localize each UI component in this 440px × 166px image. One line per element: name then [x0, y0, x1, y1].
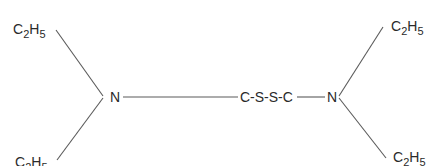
bond-n-right-to-ethyl-bottom-right	[339, 98, 386, 158]
nitrogen-left: N	[110, 90, 120, 104]
ethyl-group-bottom-right: C2H5	[393, 150, 426, 164]
ethyl-group-top-right: C2H5	[391, 19, 424, 33]
bond-n-right-to-ethyl-top-right	[339, 27, 383, 96]
ethyl-group-bottom-left: C2H5	[15, 155, 48, 166]
bond-ethyl-bottom-left-to-n-left	[57, 98, 103, 160]
nitrogen-right: N	[327, 90, 337, 104]
bond-ethyl-top-left-to-n-left	[56, 30, 103, 96]
bond-lines	[0, 0, 440, 166]
central-chain-c-s-s-c: C-S-S-C	[240, 90, 293, 104]
ethyl-group-top-left: C2H5	[13, 22, 46, 36]
